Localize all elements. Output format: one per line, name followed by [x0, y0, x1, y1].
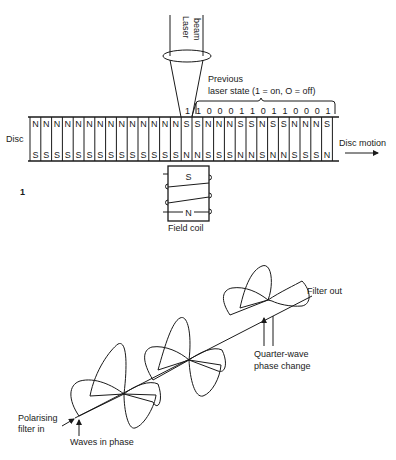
- previous-state-legend: laser state (1 = on, O = off): [208, 86, 315, 96]
- bottom-pole-cell: N: [237, 150, 244, 160]
- quarter-wave-label-2: phase change: [254, 361, 311, 371]
- bottom-pole-cell: S: [140, 150, 146, 160]
- quarter-wave-polarisation-figure: Filter out Quarter-wave phase change Pol…: [18, 266, 343, 447]
- top-pole-cell: N: [97, 119, 104, 129]
- laser-beam-label-1: Laser: [181, 16, 191, 39]
- top-pole-cell: N: [54, 119, 61, 129]
- top-pole-cell: S: [281, 119, 287, 129]
- quarter-wave-label-1: Quarter-wave: [254, 349, 309, 359]
- top-pole-cell: N: [119, 119, 126, 129]
- field-coil: S N Field coil: [163, 166, 212, 233]
- current-bit: 1: [185, 106, 190, 116]
- bottom-pole-cell: S: [108, 150, 114, 160]
- top-pole-cell: S: [324, 119, 330, 129]
- bit: 0: [228, 106, 233, 116]
- top-pole-cell: N: [151, 119, 158, 129]
- bit: 1: [239, 106, 244, 116]
- bottom-pole-cell: N: [281, 150, 288, 160]
- bottom-pole-cell: S: [86, 150, 92, 160]
- top-pole-cell: N: [259, 119, 266, 129]
- bottom-pole-cell: S: [173, 150, 179, 160]
- bottom-pole-cell: S: [151, 150, 157, 160]
- bottom-pole-cell: N: [324, 150, 331, 160]
- top-pole-cell: S: [194, 119, 200, 129]
- laser-beam-label-2: beam: [192, 18, 202, 41]
- bottom-pole-cell: S: [119, 150, 125, 160]
- waves-in-phase-label: Waves in phase: [70, 437, 134, 447]
- bottom-pole-cell: N: [194, 150, 201, 160]
- diagram-canvas: Laser beam Previous laser state (1 = on,…: [0, 0, 396, 460]
- bottom-pole-cell: N: [248, 150, 255, 160]
- top-pole-cell: N: [227, 119, 234, 129]
- polarising-filter-label-1: Polarising: [18, 413, 58, 423]
- bottom-pole-cell: S: [65, 150, 71, 160]
- previous-state-label: Previous: [208, 74, 244, 84]
- bottom-pole-cell: S: [130, 150, 136, 160]
- bit: 1: [282, 106, 287, 116]
- top-pole-cell: N: [205, 119, 212, 129]
- filter-in-arrow-icon: [62, 419, 74, 426]
- top-pole-cell: N: [173, 119, 180, 129]
- bottom-pole-cell: S: [205, 150, 211, 160]
- bottom-pole-cell: S: [227, 150, 233, 160]
- top-pole-cell: N: [313, 119, 320, 129]
- polarising-filter-label-2: filter in: [18, 424, 45, 434]
- disc-strip: NNNNNNNNNNNNNNSSNNNSSNSSNNNS SSSSSSSSSSS…: [28, 117, 339, 161]
- bit: 0: [261, 106, 266, 116]
- top-pole-cell: N: [129, 119, 136, 129]
- bottom-pole-cell: S: [216, 150, 222, 160]
- bottom-pole-cell: S: [54, 150, 60, 160]
- bit: 1: [272, 106, 277, 116]
- laser-beam: Laser beam: [163, 15, 211, 117]
- top-pole-cell: N: [108, 119, 115, 129]
- bottom-pole-cell: S: [97, 150, 103, 160]
- top-pole-cell: N: [162, 119, 169, 129]
- field-coil-label: Field coil: [168, 223, 204, 233]
- bottom-pole-cell: N: [270, 150, 277, 160]
- filter-out-label: Filter out: [307, 286, 343, 296]
- bit: 1: [196, 106, 201, 116]
- bottom-pole-cell: S: [162, 150, 168, 160]
- magneto-optical-write-figure: Laser beam Previous laser state (1 = on,…: [6, 15, 386, 233]
- bit: 0: [218, 106, 223, 116]
- previous-bits-row: 1 0 0 0 1 1 0 1 1 0 0 0 1: [196, 106, 331, 116]
- top-pole-cell: S: [248, 119, 254, 129]
- bit: 1: [326, 106, 331, 116]
- bottom-pole-cell: S: [313, 150, 319, 160]
- disc-motion-label: Disc motion: [339, 138, 386, 148]
- bottom-pole-cell: S: [32, 150, 38, 160]
- bottom-pole-cell: S: [292, 150, 298, 160]
- bottom-pole-cell: S: [259, 150, 265, 160]
- figure-number: 1: [20, 187, 25, 197]
- top-pole-cell: N: [32, 119, 39, 129]
- disc-label: Disc: [6, 134, 24, 144]
- top-pole-cell: N: [140, 119, 147, 129]
- top-pole-cell: N: [302, 119, 309, 129]
- bottom-pole-cell: N: [183, 150, 190, 160]
- coil-top-pole: S: [185, 172, 191, 182]
- bit: 0: [315, 106, 320, 116]
- bit: 0: [293, 106, 298, 116]
- bottom-pole-cell: S: [43, 150, 49, 160]
- top-pole-cell: N: [43, 119, 50, 129]
- coil-bottom-pole: N: [185, 208, 192, 218]
- top-pole-cell: N: [216, 119, 223, 129]
- bottom-pole-cell: S: [302, 150, 308, 160]
- bit: 1: [250, 106, 255, 116]
- bottom-pole-cell: S: [76, 150, 82, 160]
- top-pole-cell: S: [184, 119, 190, 129]
- bit: 0: [304, 106, 309, 116]
- top-pole-cell: N: [75, 119, 82, 129]
- wave-vertical-component: [90, 266, 271, 429]
- top-pole-cell: S: [238, 119, 244, 129]
- top-pole-cell: N: [65, 119, 72, 129]
- top-pole-cell: N: [291, 119, 298, 129]
- top-pole-cell: N: [86, 119, 93, 129]
- bit: 0: [207, 106, 212, 116]
- top-pole-cell: S: [270, 119, 276, 129]
